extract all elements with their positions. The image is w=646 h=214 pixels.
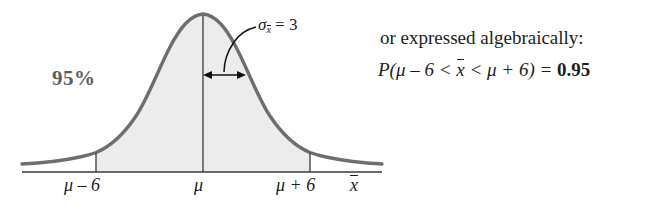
tick-label-mu-minus-6: μ – 6 (64, 176, 100, 194)
probability-prefix: P( (378, 59, 396, 80)
sigma-value: = 3 (271, 15, 298, 34)
algebraic-intro-text: or expressed algebraically: (380, 28, 584, 47)
x-axis-variable-label: x (350, 176, 358, 194)
sigma-subscript-xbar: x (266, 25, 270, 35)
probability-lower-bound: μ – 6 < (396, 59, 456, 80)
probability-upper-bound: < μ + 6) = (465, 59, 557, 80)
x-axis-variable-xbar: x (350, 176, 358, 194)
probability-xbar: x (456, 60, 464, 79)
normal-distribution-figure: 95% σx = 3 μ – 6 μ μ + 6 x or expressed … (0, 0, 646, 214)
standard-error-annotation: σx = 3 (258, 16, 297, 35)
tick-label-mu-plus-6: μ + 6 (276, 176, 315, 194)
probability-value: 0.95 (557, 59, 590, 80)
shaded-area-percent-label: 95% (52, 68, 96, 89)
probability-statement: P(μ – 6 < x < μ + 6) = 0.95 (378, 60, 590, 79)
tick-label-mu: μ (194, 176, 203, 194)
